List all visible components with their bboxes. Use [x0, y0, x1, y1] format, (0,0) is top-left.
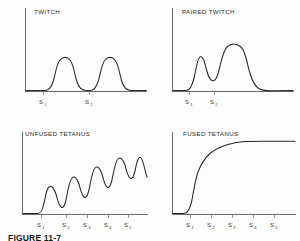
panel-fused-tetanus: FUSED TETANUS S 1 S 2 S 3 S 4 S 5	[150, 118, 300, 236]
trace-fused-tetanus	[173, 141, 295, 213]
trace-twitch	[26, 57, 146, 90]
stim-label-s1: S	[185, 99, 189, 105]
trace-paired-twitch	[173, 44, 293, 91]
stim-sub-s2: 2	[67, 225, 70, 230]
stim-sub-s1: 1	[190, 102, 193, 107]
stim-sub-s1: 1	[42, 225, 45, 230]
chart-paired-twitch: S 1 S 2	[150, 0, 300, 118]
axes-unfused-tetanus	[23, 132, 149, 215]
figure-caption: FIGURE 11-7	[8, 233, 61, 241]
stim-sub-s5: 5	[275, 225, 278, 230]
panel-unfused-tetanus: UNFUSED TETANUS S 1 S 2 S 3 S 4 S 5	[0, 118, 150, 236]
stim-label-s4: S	[104, 222, 108, 228]
axes-twitch	[26, 8, 148, 92]
stim-label-s1: S	[186, 222, 190, 228]
figure-container: TWITCH S 1 S 2 PAIRED TWITCH S 1 S	[0, 0, 300, 241]
stim-label-s3: S	[83, 222, 87, 228]
stim-sub-s3: 3	[233, 225, 236, 230]
panel-twitch: TWITCH S 1 S 2	[0, 0, 150, 118]
stim-sub-s4: 4	[109, 225, 112, 230]
stim-label-s5: S	[270, 222, 274, 228]
trace-unfused-tetanus	[23, 157, 147, 213]
stim-label-s1: S	[39, 99, 43, 105]
stim-label-s2: S	[207, 222, 211, 228]
panel-title-paired-twitch: PAIRED TWITCH	[182, 8, 235, 15]
stim-label-s3: S	[228, 222, 232, 228]
stim-label-s5: S	[124, 222, 128, 228]
stim-sub-s1: 1	[44, 102, 47, 107]
stim-sub-s1: 1	[191, 225, 194, 230]
stim-sub-s2: 2	[90, 102, 93, 107]
panel-title-unfused-tetanus: UNFUSED TETANUS	[25, 130, 90, 137]
stim-label-s2: S	[62, 222, 66, 228]
stim-sub-s5: 5	[129, 225, 132, 230]
chart-twitch: S 1 S 2	[0, 0, 150, 118]
stim-label-s1: S	[37, 222, 41, 228]
stim-label-s2: S	[85, 99, 89, 105]
panel-paired-twitch: PAIRED TWITCH S 1 S 2	[150, 0, 300, 118]
stim-sub-s4: 4	[254, 225, 257, 230]
stim-sub-s2: 2	[212, 225, 215, 230]
stim-label-s2: S	[210, 99, 214, 105]
stim-sub-s3: 3	[88, 225, 91, 230]
panel-title-fused-tetanus: FUSED TETANUS	[183, 130, 239, 137]
axes-paired-twitch	[173, 8, 295, 92]
stim-label-s4: S	[249, 222, 253, 228]
panel-title-twitch: TWITCH	[34, 8, 60, 15]
stim-sub-s2: 2	[215, 102, 218, 107]
